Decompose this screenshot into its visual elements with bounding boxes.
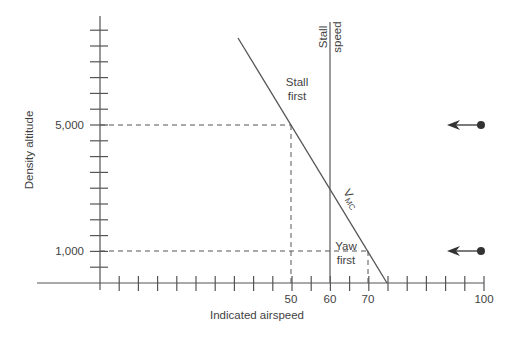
arrow-1000 bbox=[447, 246, 485, 256]
dot-icon bbox=[477, 121, 485, 129]
x-tick-label-100: 100 bbox=[474, 293, 493, 305]
dot-icon bbox=[477, 247, 485, 255]
vmc-line bbox=[238, 38, 387, 283]
arrow-5000 bbox=[447, 120, 485, 130]
y-tick-label-1000: 1,000 bbox=[55, 245, 84, 257]
x-tick-label-70: 70 bbox=[362, 293, 375, 305]
stall-speed-label-line2: speed bbox=[331, 21, 343, 52]
yaw-first-line2: first bbox=[337, 254, 356, 266]
y-tick-label-5000: 5,000 bbox=[55, 119, 84, 131]
x-axis-title: Indicated airspeed bbox=[210, 309, 304, 321]
vmc-stall-diagram: 5,000 1,000 50 60 70 100 Indicated airsp… bbox=[0, 0, 515, 337]
y-axis-ticks bbox=[90, 30, 108, 267]
vmc-label-sub: MC bbox=[343, 196, 357, 211]
y-axis-title: Density altitude bbox=[23, 111, 35, 190]
stall-first-line2: first bbox=[288, 90, 307, 102]
x-tick-label-60: 60 bbox=[324, 293, 337, 305]
yaw-first-line1: Yaw bbox=[335, 240, 357, 252]
x-tick-label-50: 50 bbox=[285, 293, 298, 305]
stall-speed-label-line1: Stall bbox=[317, 26, 329, 48]
stall-first-line1: Stall bbox=[286, 76, 308, 88]
